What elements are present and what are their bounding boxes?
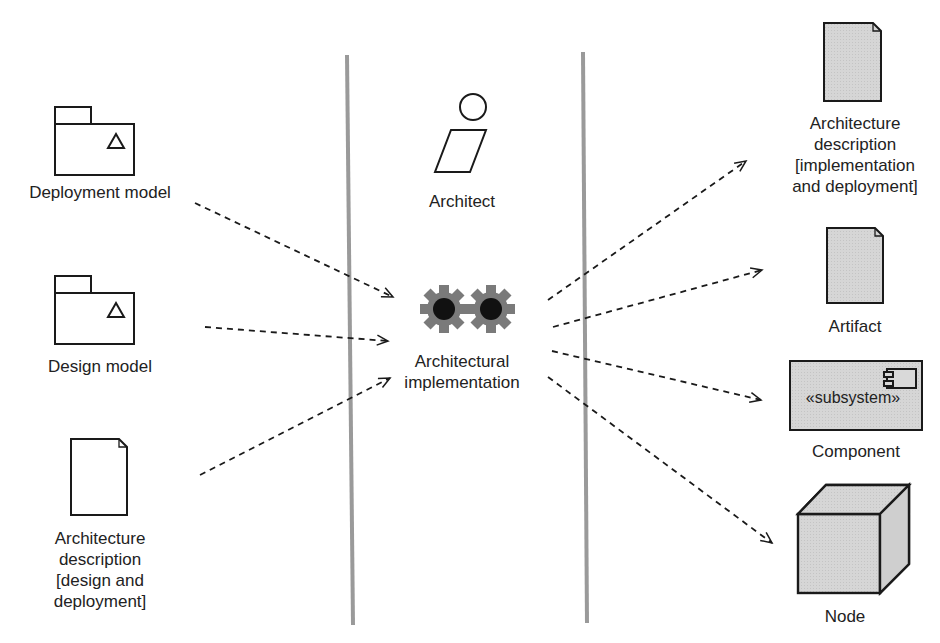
input-label-design-model: Design model bbox=[0, 356, 200, 377]
document-icon bbox=[827, 228, 883, 303]
output-label-artifact: Artifact bbox=[790, 316, 920, 337]
worker-label: Architect bbox=[392, 191, 532, 212]
gears-icon bbox=[420, 285, 515, 333]
document-icon bbox=[71, 439, 127, 515]
input-label-deployment-model: Deployment model bbox=[0, 182, 200, 203]
package-icon bbox=[55, 276, 134, 344]
input-label-architecture-description: Architecture description [design and dep… bbox=[0, 528, 200, 612]
swimlane-divider-left bbox=[347, 55, 353, 625]
activity-label: Architectural implementation bbox=[382, 351, 542, 393]
output-label-node: Node bbox=[790, 606, 900, 627]
swimlane-divider-right bbox=[583, 52, 587, 623]
output-label-architecture-description: Architecture description [implementation… bbox=[770, 113, 940, 197]
document-icon bbox=[824, 23, 881, 101]
component-stereotype: «subsystem» bbox=[790, 387, 916, 408]
node-icon bbox=[798, 485, 909, 593]
output-label-component: Component bbox=[790, 441, 922, 462]
worker-icon bbox=[435, 94, 486, 172]
package-icon bbox=[55, 107, 134, 175]
